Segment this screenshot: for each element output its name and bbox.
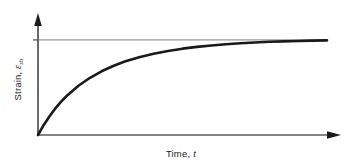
x-axis-label: Time, t xyxy=(0,148,362,159)
x-axis-label-symbol: t xyxy=(193,148,196,159)
x-axis-arrowhead xyxy=(327,131,341,139)
y-axis-label: Strain, εsh xyxy=(12,32,23,128)
shrinkage-strain-curve xyxy=(38,40,327,135)
shrinkage-strain-figure: Strain, εsh Time, t xyxy=(0,0,362,167)
y-axis-label-subscript: sh xyxy=(17,59,24,65)
y-axis-label-text: Strain, xyxy=(12,72,23,101)
plot-area xyxy=(0,0,362,167)
y-axis-label-symbol: ε xyxy=(12,65,23,69)
y-axis-arrowhead xyxy=(34,13,42,26)
x-axis-label-text: Time, xyxy=(166,148,190,159)
